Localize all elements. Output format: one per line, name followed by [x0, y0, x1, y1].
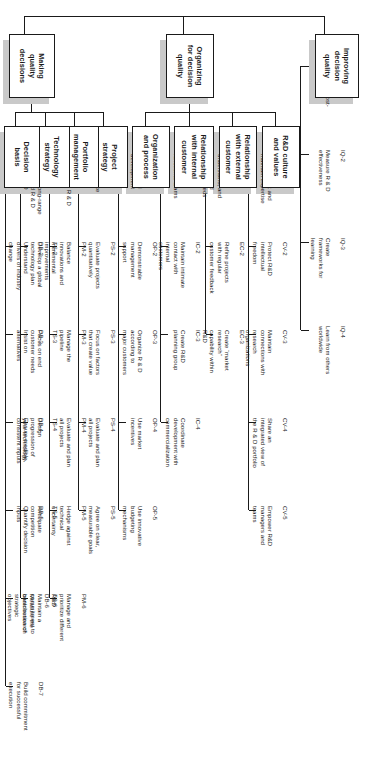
list-item[interactable]: CV-5 Empower R&D managers and teams [244, 506, 295, 568]
list-item[interactable]: DB-6 Measure the contribution of strateg… [0, 594, 57, 656]
item-code: IQ-3 [338, 238, 345, 300]
item-code: OP-5 [150, 506, 157, 568]
idq-tick-1 [301, 66, 309, 67]
item-code: TS-4 [50, 418, 57, 480]
item-text: Measure the contribution of strategic ob… [6, 594, 35, 656]
root-node-label: Making quality decisions [18, 49, 45, 84]
item-code: TS-5 [50, 506, 57, 568]
item-text: Empower R&D managers and teams [251, 506, 273, 568]
list-item[interactable]: DB-4 Ensure credible, consistent inputs [7, 418, 51, 480]
root-node-making-quality-decisions[interactable]: Making quality decisions [9, 34, 55, 98]
item-text: Coordinate development with commercializ… [164, 418, 186, 480]
root-node-improving-decision-quality[interactable]: Improving decision quality [315, 34, 359, 98]
item-text: Build commitment for successful executio… [7, 682, 29, 744]
list-item[interactable]: DB-3 Insist on alternatives [7, 330, 51, 392]
item-text: Use market incentives [128, 418, 143, 480]
item-code: DB-3 [36, 330, 43, 392]
rotated-diagram-canvas: Improving decision quality IQ-1 Learn fr… [0, 0, 389, 781]
item-code: CV-4 [280, 418, 287, 480]
item-text: Measure R & D effectiveness [316, 150, 331, 212]
item-code: TS-2 [50, 242, 57, 304]
item-code: PM-2 [79, 242, 86, 304]
trunk-stub-ofdq [183, 16, 184, 34]
branch-node-decision-basis[interactable]: Decision basis [4, 126, 40, 188]
mqd-stub-db [15, 112, 16, 126]
item-text: Insist on alternatives [14, 330, 29, 392]
item-code: DB-7 [36, 682, 43, 744]
item-code: DB-2 [36, 242, 43, 304]
branch-node-label: Relationship with internal customer [180, 135, 207, 180]
ofdq-stub-ic [189, 112, 190, 126]
trunk-vertical-line [25, 16, 325, 17]
item-text: Ensure credible, consistent inputs [14, 418, 29, 480]
ofdq-stub-ec [232, 112, 233, 126]
item-code: PS-2 [108, 242, 115, 304]
ofdq-stub-op [145, 112, 146, 126]
branch-node-label: Project strategy [101, 142, 119, 171]
list-item[interactable]: DB-2 Understand drivers of industry chan… [0, 242, 51, 304]
item-code: PS-5 [108, 506, 115, 568]
branch-node-label: Decision basis [13, 141, 31, 172]
item-code: IQ-4 [338, 326, 345, 388]
item-code: PM-3 [79, 330, 86, 392]
item-code: OP-4 [150, 418, 157, 480]
list-item[interactable]: CV-4 Share an integrated view of the R &… [244, 418, 295, 480]
item-code: PM-5 [79, 506, 86, 568]
item-code: IC-3 [193, 330, 200, 392]
item-text: Create R&D planning group [171, 330, 186, 392]
list-item[interactable]: DB-5 Quantify decision inputs [7, 506, 51, 568]
idq-tick-2 [301, 154, 309, 155]
branch-node-label: Portfolio management [72, 134, 90, 180]
item-code: CV-5 [280, 506, 287, 568]
item-code: PM-4 [79, 418, 86, 480]
list-item[interactable]: IC-3 Create R&D planning group [164, 330, 208, 392]
list-item[interactable]: IQ-3 Create frameworks for learning [302, 238, 353, 300]
ofdq-stub-cv [275, 112, 276, 126]
item-code: IC-2 [193, 242, 200, 304]
branch-node-label: Organization and process [142, 134, 160, 180]
branch-node-relationship-with-external-customer[interactable]: Relationship with external customer [219, 126, 257, 188]
item-text: Use innovative budgeting mechanisms [121, 506, 143, 568]
item-code: PS-3 [108, 330, 115, 392]
trunk-stub-idq [324, 16, 325, 34]
list-item[interactable]: IQ-4 Learn from others worldwide [309, 326, 353, 388]
item-code: TS-3 [50, 330, 57, 392]
branch-node-rd-culture-and-values[interactable]: R&D culture and values [262, 126, 300, 188]
item-code: PS-4 [108, 418, 115, 480]
root-node-label: Organizing for decision quality [176, 45, 203, 88]
list-item[interactable]: EC-2 Refine projects with regular custom… [201, 242, 252, 304]
branch-node-label: R&D culture and values [272, 135, 290, 178]
item-text: Protect R&D intellectual freedom [251, 242, 273, 304]
branch-node-label: Technology strategy [43, 136, 61, 177]
item-text: Share an integrated view of the R & D po… [251, 418, 273, 480]
item-code: DB-6 [42, 594, 49, 656]
item-text: Refine projects with regular customer fe… [208, 242, 230, 304]
item-code: CV-3 [280, 330, 287, 392]
idq-tick-4 [301, 330, 309, 331]
branch-node-label: Relationship with external customer [224, 134, 251, 180]
item-text: Understand drivers of industry change [7, 242, 29, 304]
list-item[interactable]: IQ-2 Measure R & D effectiveness [309, 150, 353, 212]
mqd-branch-spine [16, 112, 104, 113]
item-code: CV-2 [280, 242, 287, 304]
trunk-stub-mqd [24, 16, 25, 34]
diagram-canvas: Improving decision quality IQ-1 Learn fr… [0, 0, 389, 781]
root-node-organizing-for-decision-quality[interactable]: Organizing for decision quality [166, 34, 214, 98]
item-code: EC-3 [237, 330, 244, 392]
item-code: PM-6 [79, 594, 86, 656]
item-text: Create frameworks for learning [309, 238, 331, 300]
branch-node-organization-and-process[interactable]: Organization and process [132, 126, 170, 188]
item-code: OP-2 [150, 242, 157, 304]
list-item[interactable]: DB-7 Build commitment for successful exe… [0, 682, 51, 744]
mqd-stub-pm [74, 112, 75, 126]
item-text: Quantify decision inputs [14, 506, 29, 568]
branch-node-relationship-with-internal-customer[interactable]: Relationship with internal customer [174, 126, 214, 188]
list-item[interactable]: OP-4 Use market incentives [121, 418, 165, 480]
item-code: OP-3 [150, 330, 157, 392]
item-code: IC-4 [193, 418, 200, 480]
item-code: EC-2 [237, 242, 244, 304]
item-text: Learn from others worldwide [316, 326, 331, 388]
root-node-label: Improving decision quality [323, 48, 350, 84]
item-code: DB-5 [36, 506, 43, 568]
item-code: IQ-2 [338, 150, 345, 212]
